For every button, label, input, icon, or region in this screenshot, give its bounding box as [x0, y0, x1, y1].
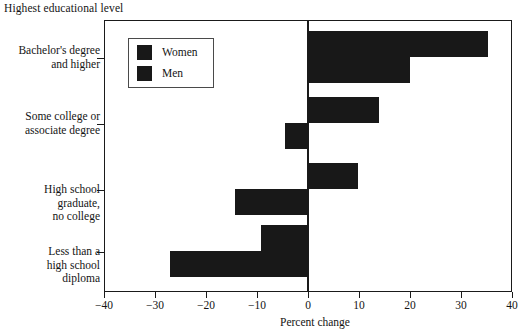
bar-women-1 — [308, 97, 379, 123]
category-label-2: High school graduate, no college — [0, 183, 100, 224]
x-tick-8 — [512, 292, 513, 298]
x-tick-label-8: 40 — [487, 299, 525, 311]
legend-swatch-men-icon — [137, 66, 152, 81]
x-tick-label-5: 10 — [334, 299, 384, 311]
category-label-1: Some college or associate degree — [0, 110, 100, 137]
bar-women-3 — [261, 225, 308, 251]
x-tick-label-4: 0 — [283, 299, 333, 311]
x-tick-label-2: −20 — [181, 299, 231, 311]
bar-chart: Highest educational level Bachelor's deg… — [0, 0, 525, 336]
legend-label-women: Women — [162, 45, 197, 60]
bar-women-0 — [308, 31, 488, 57]
bar-women-2 — [308, 163, 358, 189]
x-tick-label-7: 30 — [436, 299, 486, 311]
bar-men-2 — [235, 189, 308, 215]
category-label-0: Bachelor's degree and higher — [0, 44, 100, 71]
bar-men-0 — [308, 57, 410, 83]
x-tick-label-1: −30 — [130, 299, 180, 311]
x-tick-1 — [155, 292, 156, 298]
x-tick-label-6: 20 — [385, 299, 435, 311]
x-axis-title-wrap: Percent change — [0, 316, 525, 328]
x-tick-2 — [206, 292, 207, 298]
x-tick-6 — [410, 292, 411, 298]
x-tick-label-0: −40 — [79, 299, 129, 311]
x-tick-5 — [359, 292, 360, 298]
x-tick-3 — [257, 292, 258, 298]
x-tick-0 — [104, 292, 105, 298]
x-tick-label-3: −10 — [232, 299, 282, 311]
legend-label-men: Men — [162, 66, 183, 81]
bar-men-3 — [170, 251, 308, 277]
x-tick-7 — [461, 292, 462, 298]
bar-men-1 — [285, 123, 308, 149]
legend: Women Men — [128, 38, 214, 88]
x-tick-4 — [308, 292, 309, 298]
legend-item-men: Men — [137, 66, 183, 81]
category-label-3: Less than a high school diploma — [0, 245, 100, 286]
legend-swatch-women-icon — [137, 45, 152, 60]
y-axis-title: Highest educational level — [4, 2, 123, 14]
legend-item-women: Women — [137, 45, 197, 60]
x-axis-title: Percent change — [280, 316, 350, 328]
